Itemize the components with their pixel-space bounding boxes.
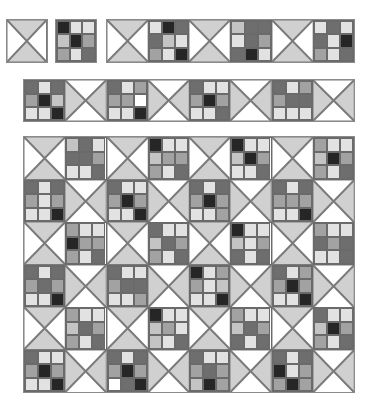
nine-patch-block	[24, 180, 65, 223]
nine-patch-square	[327, 250, 340, 264]
nine-patch-square	[38, 266, 51, 280]
nine-patch-square	[79, 335, 92, 349]
nine-patch-square	[121, 364, 134, 378]
nine-patch-square	[57, 48, 70, 61]
nine-patch-square	[340, 34, 353, 47]
nine-patch-square	[25, 181, 38, 195]
hourglass-block-horizontal	[313, 80, 354, 121]
nine-patch-block	[189, 80, 230, 121]
nine-patch-square	[108, 279, 121, 293]
nine-patch-block	[272, 180, 313, 223]
nine-patch-block	[313, 307, 354, 350]
nine-patch-block	[272, 350, 313, 393]
nine-patch-square	[273, 364, 286, 378]
nine-patch-square	[121, 266, 134, 280]
nine-patch-square	[108, 266, 121, 280]
nine-patch-square	[162, 237, 175, 251]
nine-patch-square	[190, 81, 203, 94]
nine-patch-square	[327, 223, 340, 237]
nine-patch-square	[134, 378, 147, 392]
nine-patch-square	[25, 364, 38, 378]
nine-patch-square	[216, 208, 229, 222]
nine-patch-square	[66, 165, 79, 179]
nine-patch-square	[134, 266, 147, 280]
nine-patch-square	[175, 250, 188, 264]
nine-patch-square	[258, 34, 271, 47]
nine-patch-square	[121, 194, 134, 208]
nine-patch-square	[175, 322, 188, 336]
nine-patch-square	[51, 378, 64, 392]
nine-patch-square	[51, 293, 64, 307]
hourglass-block-vertical	[24, 137, 65, 180]
nine-patch-square	[175, 34, 188, 47]
nine-patch-block	[65, 222, 106, 265]
nine-patch-square	[38, 351, 51, 365]
nine-patch-square	[38, 364, 51, 378]
nine-patch-square	[327, 48, 340, 61]
nine-patch-square	[149, 237, 162, 251]
nine-patch-square	[216, 194, 229, 208]
nine-patch-square	[175, 237, 188, 251]
hourglass-block-vertical	[107, 20, 148, 62]
nine-patch-block	[313, 20, 354, 62]
nine-patch-block	[107, 80, 148, 121]
hourglass-block-horizontal	[230, 350, 271, 393]
nine-patch-square	[51, 194, 64, 208]
nine-patch-square	[231, 48, 244, 61]
nine-patch-square	[203, 94, 216, 107]
nine-patch-square	[51, 279, 64, 293]
nine-patch-square	[231, 237, 244, 251]
nine-patch-square	[51, 351, 64, 365]
nine-patch-square	[190, 351, 203, 365]
hourglass-block-vertical	[189, 20, 230, 62]
nine-patch-square	[273, 81, 286, 94]
nine-patch-square	[340, 165, 353, 179]
nine-patch-square	[327, 322, 340, 336]
nine-patch-square	[286, 351, 299, 365]
nine-patch-square	[38, 293, 51, 307]
row-1-single-ninepatch	[55, 19, 97, 63]
nine-patch-square	[286, 194, 299, 208]
nine-patch-square	[314, 138, 327, 152]
hourglass-block-vertical	[107, 137, 148, 180]
nine-patch-square	[121, 351, 134, 365]
nine-patch-square	[216, 94, 229, 107]
hourglass-block-horizontal	[65, 350, 106, 393]
nine-patch-square	[273, 378, 286, 392]
nine-patch-square	[286, 378, 299, 392]
nine-patch-square	[134, 94, 147, 107]
nine-patch-square	[149, 48, 162, 61]
nine-patch-block	[230, 20, 271, 62]
hourglass-block-horizontal	[148, 265, 189, 308]
nine-patch-square	[38, 279, 51, 293]
nine-patch-square	[190, 279, 203, 293]
nine-patch-square	[149, 335, 162, 349]
nine-patch-square	[108, 194, 121, 208]
nine-patch-square	[108, 364, 121, 378]
hourglass-block-vertical	[189, 222, 230, 265]
nine-patch-square	[314, 322, 327, 336]
nine-patch-square	[257, 165, 270, 179]
nine-patch-square	[25, 107, 38, 120]
nine-patch-square	[244, 152, 257, 166]
nine-patch-square	[121, 208, 134, 222]
nine-patch-block	[189, 265, 230, 308]
nine-patch-square	[314, 21, 327, 34]
nine-patch-square	[175, 335, 188, 349]
nine-patch-square	[216, 364, 229, 378]
nine-patch-square	[314, 48, 327, 61]
nine-patch-block	[313, 222, 354, 265]
nine-patch-square	[79, 237, 92, 251]
nine-patch-square	[51, 94, 64, 107]
nine-patch-square	[327, 152, 340, 166]
nine-patch-square	[231, 322, 244, 336]
nine-patch-square	[231, 335, 244, 349]
nine-patch-square	[286, 293, 299, 307]
nine-patch-square	[231, 152, 244, 166]
nine-patch-square	[38, 107, 51, 120]
nine-patch-square	[108, 107, 121, 120]
nine-patch-square	[175, 138, 188, 152]
nine-patch-square	[203, 364, 216, 378]
nine-patch-square	[286, 94, 299, 107]
nine-patch-square	[231, 250, 244, 264]
